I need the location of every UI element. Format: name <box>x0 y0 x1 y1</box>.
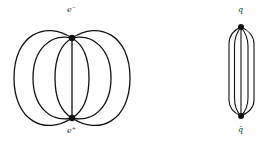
antiquark-label: q̄ <box>238 126 243 134</box>
positron-node <box>69 115 75 121</box>
electron-node <box>69 35 75 41</box>
antiquark-node <box>238 113 244 119</box>
diagram-canvas <box>0 0 269 142</box>
quark-node <box>238 24 244 30</box>
dipole-field-lines <box>14 31 130 126</box>
quark-label: q <box>238 6 243 14</box>
flux-tube-lines <box>229 27 254 116</box>
electron-label: e⁻ <box>67 6 76 14</box>
positron-label: e⁺ <box>67 127 76 135</box>
